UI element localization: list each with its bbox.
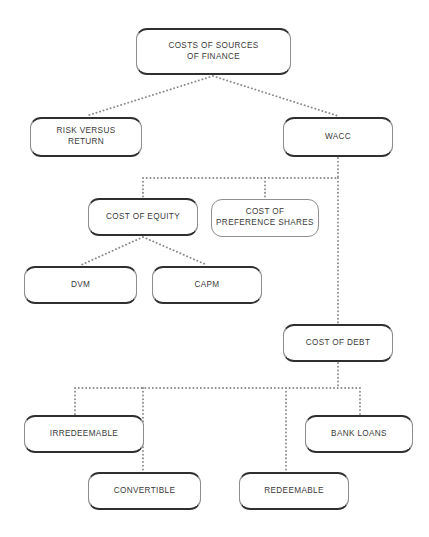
- node-root[interactable]: COSTS OF SOURCES OF FINANCE: [136, 28, 291, 75]
- node-dvm[interactable]: DVM: [24, 266, 137, 304]
- node-preference[interactable]: COST OF PREFERENCE SHARES: [211, 199, 319, 237]
- node-risk[interactable]: RISK VERSUS RETURN: [30, 117, 142, 157]
- connector-equity-fan: [81, 237, 207, 265]
- node-irredeemable[interactable]: IRREDEEMABLE: [24, 415, 144, 453]
- node-risk-label: RISK VERSUS RETURN: [53, 126, 120, 148]
- node-redeemable[interactable]: REDEEMABLE: [239, 472, 349, 510]
- node-capm-label: CAPM: [190, 280, 223, 291]
- node-irredeemable-label: IRREDEEMABLE: [46, 429, 122, 440]
- node-equity[interactable]: COST OF EQUITY: [88, 198, 198, 236]
- node-bankloans[interactable]: BANK LOANS: [305, 415, 413, 453]
- node-preference-label: COST OF PREFERENCE SHARES: [212, 207, 318, 229]
- node-convertible[interactable]: CONVERTIBLE: [88, 472, 201, 510]
- node-wacc[interactable]: WACC: [283, 117, 393, 157]
- node-equity-label: COST OF EQUITY: [102, 212, 184, 223]
- node-debt[interactable]: COST OF DEBT: [283, 324, 393, 362]
- connector-root-fan: [86, 76, 338, 116]
- node-convertible-label: CONVERTIBLE: [110, 486, 179, 497]
- connector-wacc-bus: [143, 158, 338, 198]
- node-dvm-label: DVM: [67, 280, 94, 291]
- node-debt-label: COST OF DEBT: [302, 338, 375, 349]
- node-bankloans-label: BANK LOANS: [327, 429, 391, 440]
- node-wacc-label: WACC: [321, 132, 355, 143]
- node-redeemable-label: REDEEMABLE: [260, 486, 327, 497]
- diagram-canvas: COSTS OF SOURCES OF FINANCERISK VERSUS R…: [0, 0, 429, 537]
- node-root-label: COSTS OF SOURCES OF FINANCE: [164, 41, 262, 63]
- node-capm[interactable]: CAPM: [152, 266, 262, 304]
